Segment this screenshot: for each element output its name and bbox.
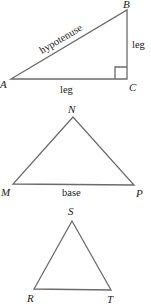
base-triangle-outline [13,117,134,185]
vertex-label-a: A [0,78,7,90]
vertex-label-c: C [129,81,137,93]
third-triangle-outline [34,221,111,290]
base-triangle: N M P base [0,103,143,199]
vertex-label-r: R [26,292,34,304]
vertex-label-m: M [0,186,11,198]
right-angle-marker [115,67,127,79]
right-triangle: A B C hypotenuse leg leg [0,0,146,95]
third-triangle: S R T [26,205,114,305]
vertex-label-p: P [135,187,143,199]
vertex-label-b: B [123,0,130,10]
vertex-label-s: S [68,205,74,217]
triangle-diagram: A B C hypotenuse leg leg N M P base S R … [0,0,151,307]
base-label: base [62,187,81,198]
vertex-label-t: T [107,293,114,305]
hypotenuse-label: hypotenuse [37,22,84,56]
horizontal-leg-label: leg [60,84,74,95]
right-triangle-outline [11,10,127,79]
vertical-leg-label: leg [132,39,146,50]
vertex-label-n: N [67,103,76,115]
